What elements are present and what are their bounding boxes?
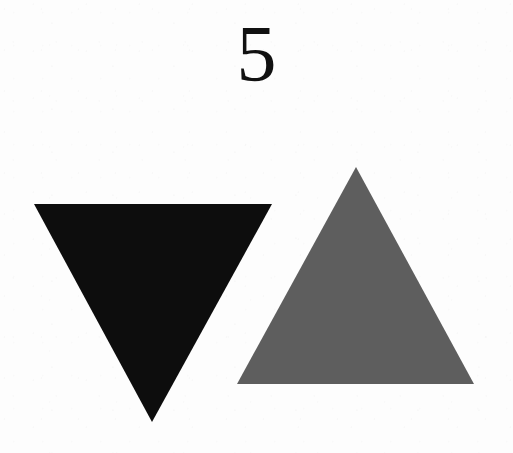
triangles-canvas <box>0 0 513 453</box>
black-inverted-triangle-shape <box>34 204 272 422</box>
gray-upright-triangle-shape <box>237 167 474 384</box>
shapes-layer <box>0 0 513 453</box>
figure-page: 5 <box>0 0 513 453</box>
